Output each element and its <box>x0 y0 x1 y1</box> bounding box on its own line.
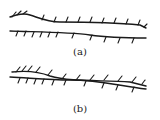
panel-a-lower-surface <box>10 31 146 38</box>
hatch-tick <box>66 17 68 22</box>
hatch-tick <box>42 79 44 84</box>
fault-diagram <box>0 0 160 120</box>
panel-b-label: (b) <box>73 104 87 114</box>
hatch-tick <box>76 75 80 80</box>
hatch-tick <box>104 75 108 80</box>
hatch-tick <box>132 38 134 43</box>
hatch-tick <box>118 38 120 43</box>
panel-b-lower-surface <box>10 77 146 89</box>
hatch-tick <box>142 80 145 84</box>
panel-a-label: (a) <box>73 47 87 57</box>
hatch-tick <box>48 70 52 75</box>
hatch-tick <box>26 78 28 83</box>
hatch-tick <box>18 78 20 83</box>
panel-a-upper-ticks <box>12 11 147 27</box>
hatch-tick <box>118 76 122 81</box>
hatch-tick <box>52 80 54 85</box>
panel-b <box>10 66 146 92</box>
hatch-tick <box>32 32 34 37</box>
hatch-tick <box>40 32 42 37</box>
hatch-tick <box>144 24 147 27</box>
hatch-tick <box>84 81 86 86</box>
hatch-tick <box>114 18 116 23</box>
hatch-tick <box>22 66 26 71</box>
hatch-tick <box>104 37 106 42</box>
hatch-tick <box>132 77 136 82</box>
hatch-tick <box>116 85 118 90</box>
hatch-tick <box>36 67 40 72</box>
panel-a <box>10 11 147 43</box>
hatch-tick <box>64 80 66 85</box>
hatch-tick <box>90 75 94 80</box>
hatch-tick <box>34 79 36 84</box>
hatch-tick <box>78 17 80 22</box>
hatch-tick <box>90 17 92 22</box>
hatch-tick <box>28 66 32 71</box>
hatch-tick <box>102 83 104 88</box>
